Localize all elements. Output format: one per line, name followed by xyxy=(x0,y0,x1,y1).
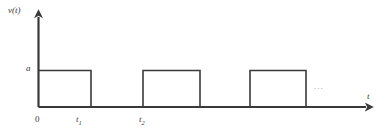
tick-label-t1-subscript: 1 xyxy=(79,119,82,126)
y-axis-label: v(t) xyxy=(8,6,21,15)
pulse-train-plot xyxy=(0,0,390,136)
pulse-2 xyxy=(143,71,200,108)
tick-label-t1: t1 xyxy=(76,115,82,126)
tick-label-t2-subscript: 2 xyxy=(142,119,145,126)
tick-label-t2: t2 xyxy=(139,115,145,126)
pulse-1 xyxy=(39,71,92,108)
x-axis-label: t xyxy=(367,92,370,101)
pulse-3 xyxy=(250,71,306,108)
amplitude-label: a xyxy=(26,64,31,73)
tick-label-zero: 0 xyxy=(35,115,40,124)
continuation-ellipsis: ... xyxy=(314,82,324,91)
pulse-train-figure: v(t) t a 0 t1 t2 ... xyxy=(0,0,390,136)
